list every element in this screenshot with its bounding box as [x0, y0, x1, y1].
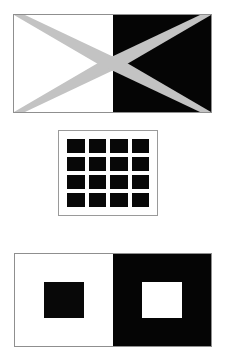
contrast-white-pane	[15, 254, 113, 346]
grid-cell-container	[67, 139, 149, 207]
grid-cell	[132, 157, 150, 171]
grid-cell	[132, 175, 150, 189]
grid-cell	[67, 193, 85, 207]
figure-stage: Gray bands forming an X across white and…	[0, 0, 227, 364]
grid-cell	[67, 175, 85, 189]
grid-cell	[110, 175, 128, 189]
grid-cell	[89, 175, 107, 189]
contrast-black-square	[44, 282, 84, 318]
contrast-white-square	[142, 282, 182, 318]
hermann-grid-figure: Four by four array of black squares on w…	[58, 130, 158, 216]
grid-cell	[89, 157, 107, 171]
grid-cell	[67, 139, 85, 153]
grid-cell	[110, 139, 128, 153]
grid-cell	[132, 139, 150, 153]
band-lower-right	[107, 56, 211, 112]
grid-cell	[89, 193, 107, 207]
simultaneous-contrast-figure: Black square on white field beside white…	[14, 253, 212, 347]
bowtie-bands-figure: Gray bands forming an X across white and…	[13, 14, 212, 113]
grid-cell	[132, 193, 150, 207]
contrast-black-pane	[113, 254, 211, 346]
grid-caption: Four by four array of black squares on w…	[59, 131, 60, 132]
grid-cell	[110, 193, 128, 207]
grid-cell	[89, 139, 107, 153]
grid-cell	[67, 157, 85, 171]
band-lower-left	[14, 56, 118, 112]
bowtie-gray-bands	[14, 15, 211, 112]
grid-cell	[110, 157, 128, 171]
